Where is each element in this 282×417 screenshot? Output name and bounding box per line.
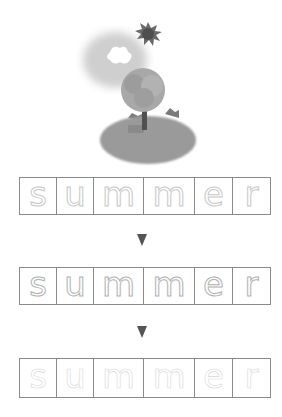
letter: u — [64, 267, 86, 301]
letter-cell: s — [20, 268, 57, 304]
letter-cell: r — [233, 359, 270, 397]
down-arrow-icon — [137, 234, 147, 246]
letter: m — [102, 177, 135, 211]
letter: m — [102, 267, 135, 301]
letter-cell: m — [94, 178, 144, 214]
letter: s — [29, 359, 47, 393]
summer-illustration — [70, 0, 210, 170]
letter: s — [29, 267, 47, 301]
letter: m — [102, 359, 135, 393]
letter-cell: m — [94, 268, 144, 304]
letter: m — [152, 267, 185, 301]
letter: u — [64, 177, 86, 211]
letter-cell: r — [233, 178, 270, 214]
letter: r — [245, 177, 259, 211]
letter: r — [245, 267, 259, 301]
letter: e — [203, 177, 224, 211]
letter-row-faint: s u m m e r — [19, 358, 271, 398]
letter: m — [152, 177, 185, 211]
letter-cell: e — [195, 268, 233, 304]
letter: s — [29, 177, 47, 211]
letter-cell: u — [57, 359, 94, 397]
letter-cell: s — [20, 178, 57, 214]
letter: e — [203, 359, 224, 393]
letter-cell: m — [144, 268, 195, 304]
letter: u — [64, 359, 86, 393]
letter-cell: s — [20, 359, 57, 397]
hill — [100, 108, 196, 164]
letter-cell: e — [195, 359, 233, 397]
letter: m — [152, 359, 185, 393]
letter-cell: u — [57, 268, 94, 304]
letter-row-outline: s u m m e r — [19, 177, 271, 215]
letter-cell: u — [57, 178, 94, 214]
letter: e — [203, 267, 224, 301]
letter-cell: m — [144, 178, 195, 214]
letter-cell: m — [94, 359, 144, 397]
letter-cell: m — [144, 359, 195, 397]
letter-cell: e — [195, 178, 233, 214]
letter: r — [245, 359, 259, 393]
letter-row-dotted: s u m m e r — [19, 267, 271, 305]
letter-cell: r — [233, 268, 270, 304]
down-arrow-icon — [137, 326, 147, 338]
